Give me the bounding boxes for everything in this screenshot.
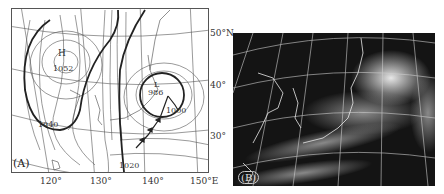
longitude-label-130: 130° xyxy=(90,176,112,186)
latitude-label-40: 40° xyxy=(210,80,226,90)
longitude-label-150: 150°E xyxy=(190,176,218,186)
latitude-label-30: 30° xyxy=(210,131,226,141)
satellite-image-panel-b: (B) xyxy=(233,33,435,186)
low-pressure-value: 986 xyxy=(148,88,163,97)
longitude-label-120: 120° xyxy=(40,176,62,186)
latitude-label-50: 50°N xyxy=(210,28,234,38)
panel-label-b: (B) xyxy=(238,171,259,184)
weather-map-panel-a: H 1052 L 986 1040 1020 1000 (A) 120° 130… xyxy=(0,0,230,194)
isobar-label-1040: 1040 xyxy=(38,120,58,129)
high-pressure-value: 1052 xyxy=(53,64,73,73)
panel-label-a: (A) xyxy=(13,157,30,170)
satellite-image-graphic xyxy=(233,33,435,186)
weather-map-graphic xyxy=(0,0,230,194)
isobar-label-1020: 1020 xyxy=(119,161,139,170)
high-pressure-symbol: H xyxy=(58,48,66,58)
isobar-label-1000: 1000 xyxy=(166,106,186,115)
longitude-label-140: 140° xyxy=(142,176,164,186)
